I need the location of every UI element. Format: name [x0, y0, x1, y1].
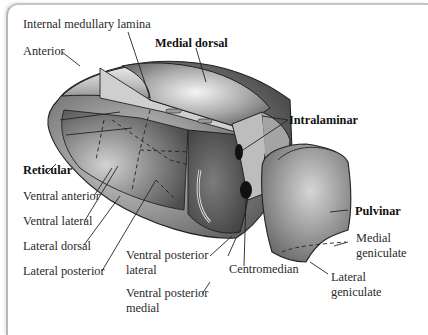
label-medial-geniculate-line1: Medial	[356, 231, 391, 245]
label-pulvinar: Pulvinar	[355, 204, 401, 218]
label-reticular: Reticular	[23, 163, 72, 177]
label-centromedian: Centromedian	[229, 262, 299, 276]
label-anterior: Anterior	[23, 44, 65, 58]
label-ventral-posterior-lateral-line1: Ventral posterior	[126, 248, 208, 262]
intralaminar-nucleus	[235, 144, 243, 160]
label-medial-dorsal: Medial dorsal	[155, 36, 228, 50]
label-ventral-posterior-medial-line1: Ventral posterior	[126, 286, 208, 300]
label-intralaminar: Intralaminar	[289, 113, 358, 127]
label-internal-medullary-lamina: Internal medullary lamina	[23, 17, 151, 31]
label-lateral-geniculate-line2: geniculate	[331, 285, 382, 299]
label-lateral-geniculate-line1: Lateral	[331, 270, 366, 284]
label-lateral-posterior: Lateral posterior	[23, 264, 105, 278]
label-ventral-anterior: Ventral anterior	[23, 189, 100, 203]
label-ventral-posterior-medial-line2: medial	[126, 301, 159, 315]
label-medial-geniculate-line2: geniculate	[356, 246, 407, 260]
label-ventral-posterior-lateral-line2: lateral	[126, 263, 157, 277]
pulvinar-nucleus	[262, 144, 351, 262]
label-ventral-lateral: Ventral lateral	[23, 214, 92, 228]
centromedian-nucleus	[240, 181, 252, 199]
label-lateral-dorsal: Lateral dorsal	[23, 239, 91, 253]
